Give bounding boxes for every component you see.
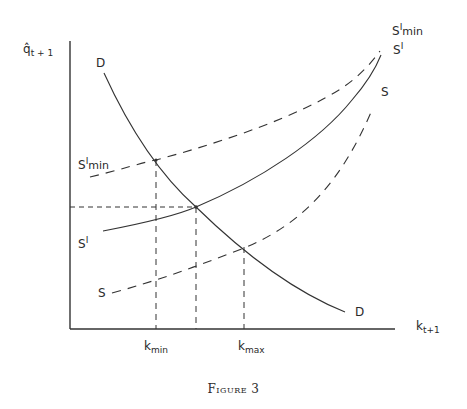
intersection-point-equilibrium [194, 205, 198, 209]
label-S-prime-min-left: SImin [78, 157, 109, 171]
x-axis-subscript: t+1 [423, 325, 440, 335]
label-S-prime-min-right-sub: min [402, 25, 423, 38]
label-S-prime-left-prime: I [86, 235, 89, 245]
y-axis-subscript: t + 1 [31, 48, 54, 58]
label-S-prime-min-left-sub: min [88, 159, 109, 172]
x-axis-label: kt+1 [416, 320, 440, 335]
label-S-prime-left-base: S [78, 237, 86, 251]
demand-curve-D [104, 73, 345, 312]
label-S-right: S [381, 86, 389, 98]
tick-kmin-symbol: k [144, 339, 151, 353]
y-axis-symbol: q̂ [23, 42, 31, 56]
y-axis-label: q̂t + 1 [23, 43, 53, 58]
label-S-left: S [98, 287, 106, 299]
diagram-canvas [0, 0, 467, 409]
supply-curve-S-prime-min [90, 51, 380, 177]
label-S-prime-min-right-base: S [392, 24, 400, 38]
supply-curve-S [112, 110, 372, 293]
label-S-prime-min-left-base: S [78, 158, 86, 172]
tick-kmax-symbol: k [238, 339, 245, 353]
label-S-prime-right: SI [393, 42, 403, 56]
label-S-prime-right-base: S [393, 43, 401, 57]
label-S-prime-left: SI [78, 236, 88, 250]
x-axis-symbol: k [416, 319, 423, 333]
tick-kmax-subscript: max [245, 345, 265, 355]
label-D-top: D [96, 57, 105, 69]
label-S-prime-min-right: SImin [392, 23, 423, 37]
label-D-bottom: D [355, 306, 364, 318]
intersection-point-kmin [154, 158, 157, 161]
label-S-prime-right-prime: I [401, 41, 404, 51]
figure-caption: Figure 3 [0, 382, 467, 396]
tick-kmin-subscript: min [151, 345, 168, 355]
tick-label-kmin: kmin [144, 340, 168, 355]
supply-curve-S-prime [103, 55, 381, 231]
tick-label-kmax: kmax [238, 340, 265, 355]
